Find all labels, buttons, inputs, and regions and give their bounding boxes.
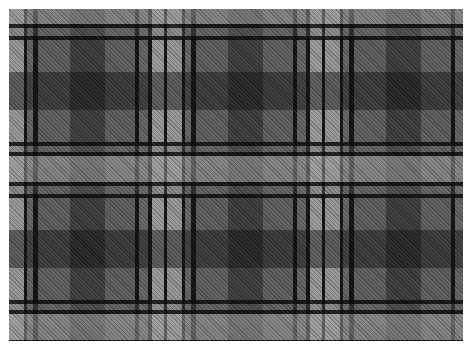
twill-texture — [9, 9, 463, 341]
tartan-fabric-swatch — [9, 9, 463, 341]
